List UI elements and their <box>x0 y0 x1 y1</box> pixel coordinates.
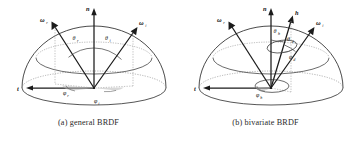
omega-i-label: ω <box>139 19 144 26</box>
tangent-label: t <box>194 85 196 92</box>
theta-h-subscript: h <box>278 31 280 36</box>
phi-d-subscript: d <box>293 57 296 62</box>
omega-i-subscript: i <box>145 23 147 28</box>
phi-h-subscript: h <box>260 95 262 100</box>
theta-r-label: θ <box>73 35 76 41</box>
omega-r-label: ω <box>40 16 45 23</box>
brdf-figure: n t ω r ω i θ r θ i <box>0 0 354 142</box>
diagram-general-brdf: n t ω r ω i θ r θ i <box>0 0 177 118</box>
omega-r-vector-line <box>232 27 271 88</box>
half-vector-arrowhead <box>288 16 294 24</box>
omega-i-subscript: i <box>322 23 324 28</box>
phi-i-arc <box>104 90 116 91</box>
origin-point <box>270 87 272 89</box>
omega-r-label: ω <box>217 16 222 23</box>
equator-front-arc <box>199 88 343 105</box>
panel-general-brdf: n t ω r ω i θ r θ i <box>0 0 177 142</box>
diagram-bivariate-brdf: n t h ω r ω i θ h θ d <box>177 0 354 118</box>
omega-i-label: ω <box>316 19 321 26</box>
panel-bivariate-brdf: n t h ω r ω i θ h θ d <box>177 0 354 142</box>
phi-r-subscript: r <box>67 93 69 98</box>
normal-label: n <box>86 5 90 12</box>
phi-r-wedge <box>62 86 94 91</box>
tangent-arrowhead <box>203 85 210 90</box>
omega-i-vector-line <box>94 33 133 88</box>
theta-i-arc <box>94 48 122 60</box>
theta-i-subscript: i <box>109 38 111 43</box>
omega-r-arrowhead <box>52 22 59 30</box>
tangent-label: t <box>17 85 19 92</box>
theta-i-label: θ <box>105 35 108 41</box>
theta-r-subscript: r <box>77 38 79 43</box>
omega-r-arrowhead <box>229 22 236 30</box>
normal-arrowhead <box>91 8 96 15</box>
theta-d-label: θ <box>287 36 290 42</box>
theta-h-label: θ <box>274 28 277 34</box>
normal-arrowhead <box>268 8 273 15</box>
omega-r-subscript: r <box>46 20 48 25</box>
normal-label: n <box>263 5 267 12</box>
caption-panel-b: (b) bivariate BRDF <box>177 118 354 127</box>
omega-r-subscript: r <box>223 20 225 25</box>
half-vector-label: h <box>295 9 299 16</box>
caption-panel-a: (a) general BRDF <box>0 118 177 127</box>
theta-r-arc <box>69 48 95 57</box>
origin-point <box>93 87 95 89</box>
tangent-arrowhead <box>26 85 33 90</box>
